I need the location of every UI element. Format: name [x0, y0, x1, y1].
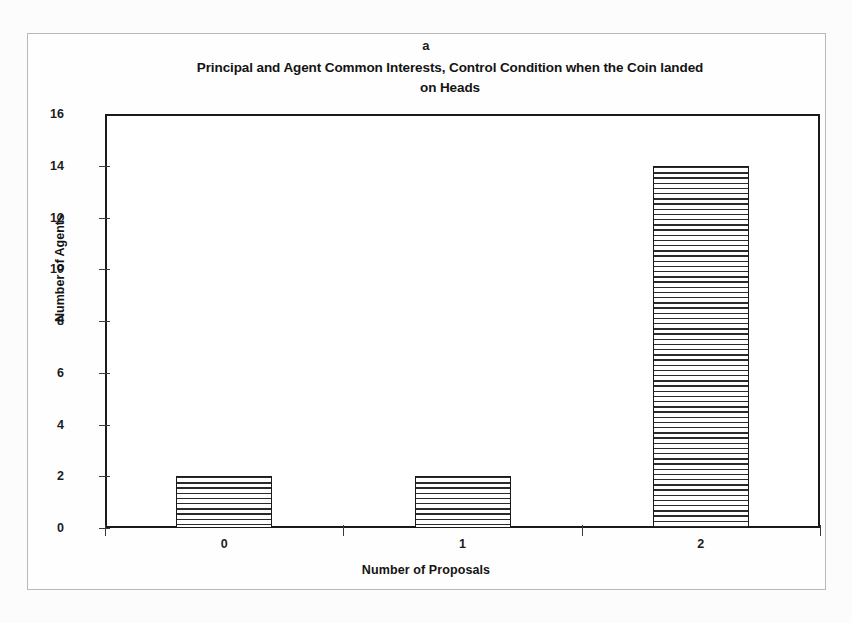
y-tick-mark — [99, 166, 110, 167]
bar-2 — [653, 166, 749, 528]
y-tick-mark — [99, 425, 110, 426]
chart-title-line-1: Principal and Agent Common Interests, Co… — [120, 58, 780, 78]
panel-letter-label: a — [0, 38, 852, 53]
x-tick-mark — [343, 525, 344, 536]
y-tick-label: 4 — [30, 418, 64, 432]
y-tick-label: 0 — [30, 521, 64, 535]
x-axis-title: Number of Proposals — [0, 563, 852, 577]
chart-title-line-2: on Heads — [120, 78, 780, 98]
x-tick-label: 0 — [164, 537, 284, 551]
x-tick-label: 1 — [403, 537, 523, 551]
x-tick-mark — [820, 525, 821, 536]
y-tick-label: 2 — [30, 469, 64, 483]
y-tick-mark — [99, 218, 110, 219]
bar-0 — [176, 476, 272, 528]
y-tick-mark — [99, 476, 110, 477]
x-tick-label: 2 — [641, 537, 761, 551]
x-tick-mark — [582, 525, 583, 536]
chart-title: Principal and Agent Common Interests, Co… — [120, 58, 780, 98]
y-tick-mark — [99, 269, 110, 270]
x-tick-mark — [105, 525, 106, 536]
y-axis-title: Number of Agents — [53, 168, 67, 368]
bar-1 — [415, 476, 511, 528]
y-tick-label: 16 — [30, 107, 64, 121]
y-tick-mark — [99, 373, 110, 374]
figure-container: a Principal and Agent Common Interests, … — [0, 0, 852, 623]
y-tick-mark — [99, 321, 110, 322]
